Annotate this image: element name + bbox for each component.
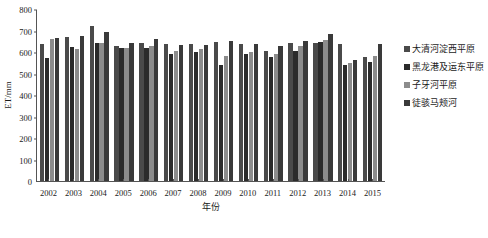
bar [298, 46, 302, 181]
legend-item[interactable]: 大清河淀西平原 [404, 44, 488, 55]
bar [154, 39, 158, 181]
bar [204, 45, 208, 181]
bar [139, 43, 143, 181]
y-axis-title: ET/mm [3, 65, 13, 125]
x-axis-tick: 2009 [210, 182, 235, 200]
x-axis-tick: 2008 [186, 182, 211, 200]
bar-group [136, 10, 161, 181]
legend-item-label: 徒骇马颊河 [412, 98, 457, 109]
x-axis-tick-label: 2010 [239, 185, 256, 198]
x-axis-tick-label: 2002 [40, 185, 57, 198]
bar [343, 65, 347, 181]
x-axis-tick-label: 2015 [364, 185, 381, 198]
legend-item[interactable]: 黑龙港及运东平原 [404, 62, 488, 73]
x-axis-tick-label: 2004 [90, 185, 107, 198]
legend-item-label: 黑龙港及运东平原 [412, 62, 484, 73]
legend-item[interactable]: 徒骇马颊河 [404, 98, 488, 109]
bar [229, 41, 233, 181]
x-axis-tick-mark [48, 179, 49, 182]
x-axis-tick: 2004 [86, 182, 111, 200]
bar-group [236, 10, 261, 181]
plot-area: 0100200300400500600700800 [36, 10, 385, 182]
bar [124, 48, 128, 181]
x-axis-tick-label: 2005 [115, 185, 132, 198]
x-axis-title: 年份 [36, 200, 385, 213]
x-axis-tick-mark [323, 179, 324, 182]
x-axis-tick-label: 2006 [140, 185, 157, 198]
bar [45, 58, 49, 181]
bar [318, 42, 322, 181]
bar [149, 46, 153, 181]
bar [348, 63, 352, 181]
legend-swatch-icon [404, 82, 410, 88]
x-axis-tick-label: 2008 [189, 185, 206, 198]
bar [194, 52, 198, 181]
x-axis-tick-mark [98, 179, 99, 182]
bar [249, 52, 253, 181]
bar [254, 44, 258, 181]
x-axis-tick-label: 2014 [339, 185, 356, 198]
legend-item-label: 大清河淀西平原 [412, 44, 475, 55]
bar [104, 32, 108, 181]
legend-item[interactable]: 子牙河平原 [404, 80, 488, 91]
chart-legend: 大清河淀西平原黑龙港及运东平原子牙河平原徒骇马颊河 [404, 44, 488, 116]
bar [129, 43, 133, 181]
x-axis-tick: 2002 [36, 182, 61, 200]
bar [99, 43, 103, 181]
bar [293, 51, 297, 182]
x-axis-tick-mark [248, 179, 249, 182]
x-axis-tick: 2006 [136, 182, 161, 200]
x-axis-tick-mark [348, 179, 349, 182]
bar-group [62, 10, 87, 181]
x-axis-tick: 2011 [260, 182, 285, 200]
x-axis-tick-mark [372, 179, 373, 182]
bar [119, 48, 123, 181]
bar [378, 44, 382, 181]
bar [169, 54, 173, 181]
bar [114, 46, 118, 181]
bar-group [211, 10, 236, 181]
bar-group [112, 10, 137, 181]
x-axis-tick-label: 2007 [165, 185, 182, 198]
x-axis-tick-label: 2012 [289, 185, 306, 198]
bar [328, 34, 332, 181]
x-axis-tick-label: 2009 [214, 185, 231, 198]
bar [244, 54, 248, 181]
bar-group [335, 10, 360, 181]
x-axis-tick: 2015 [360, 182, 385, 200]
bar [269, 57, 273, 181]
x-axis-tick: 2010 [235, 182, 260, 200]
bar [239, 44, 243, 181]
bar-group [286, 10, 311, 181]
bar [303, 41, 307, 181]
x-axis-tick-mark [298, 179, 299, 182]
legend-swatch-icon [404, 100, 410, 106]
bar [338, 44, 342, 181]
bar-group [87, 10, 112, 181]
bar [144, 48, 148, 182]
x-axis-tick-label: 2003 [65, 185, 82, 198]
x-axis-tick-mark [223, 179, 224, 182]
x-axis-tick: 2014 [335, 182, 360, 200]
bar-group [37, 10, 62, 181]
legend-swatch-icon [404, 64, 410, 70]
bar-group [360, 10, 385, 181]
bar-group [186, 10, 211, 181]
bar [50, 39, 54, 181]
bar [95, 43, 99, 181]
bar [274, 54, 278, 181]
bar [65, 37, 69, 181]
bar-group [161, 10, 186, 181]
bar-groups [37, 10, 385, 181]
bar [353, 60, 357, 181]
bar [323, 40, 327, 181]
x-axis-tick: 2013 [310, 182, 335, 200]
x-axis-tick: 2007 [161, 182, 186, 200]
bar-group [310, 10, 335, 181]
legend-item-label: 子牙河平原 [412, 80, 457, 91]
bar [288, 43, 292, 181]
x-axis-tick-mark [73, 179, 74, 182]
bar [373, 56, 377, 181]
bar [189, 44, 193, 181]
bar [363, 57, 367, 181]
